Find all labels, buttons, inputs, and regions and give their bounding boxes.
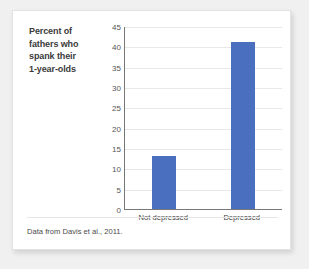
y-tick-label: 15 [112,145,121,154]
y-tick-label: 45 [112,23,121,32]
y-axis: 454035302520151050 [101,27,121,209]
y-tick-label: 40 [112,43,121,52]
bar [231,42,255,209]
figure-card: Percent of fathers who spank their 1-yea… [12,10,291,250]
source-divider [27,217,278,218]
y-tick-label: 30 [112,84,121,93]
source-note: Data from Davis et al., 2011. [27,227,123,236]
bar [152,156,176,209]
x-axis: Not depressedDepressed [124,213,281,227]
bar-slot [125,27,204,209]
y-tick-label: 10 [112,165,121,174]
bars-layer [125,27,282,209]
chart-title: Percent of fathers who spank their 1-yea… [29,25,107,75]
y-tick-label: 0 [117,206,121,215]
chart-title-line: 1-year-olds [29,63,107,76]
chart-title-line: spank their [29,50,107,63]
bar-slot [204,27,283,209]
chart-plot-wrapper: 454035302520151050 Not depressedDepresse… [101,27,281,223]
chart-title-line: Percent of [29,25,107,38]
y-tick-label: 5 [117,185,121,194]
y-tick-label: 35 [112,63,121,72]
y-tick-label: 25 [112,104,121,113]
plot-area [124,27,282,210]
y-tick-label: 20 [112,124,121,133]
chart-title-line: fathers who [29,38,107,51]
